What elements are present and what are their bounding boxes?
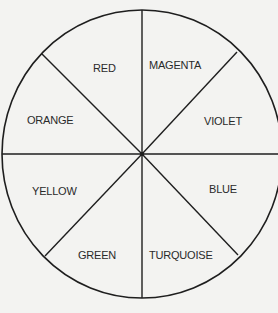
label-violet: VIOLET [204,115,242,127]
label-orange: ORANGE [27,114,73,126]
divider-lower-right [142,154,238,255]
label-turquoise: TURQUOISE [149,249,213,261]
center-point [140,152,144,156]
divider-lower-left [45,154,142,256]
label-red: RED [93,62,116,74]
label-magenta: MAGENTA [149,59,201,71]
label-blue: BLUE [209,183,237,195]
label-yellow: YELLOW [32,185,77,197]
color-wheel-diagram [0,0,278,313]
divider-upper-left [42,54,142,154]
label-green: GREEN [78,249,116,261]
